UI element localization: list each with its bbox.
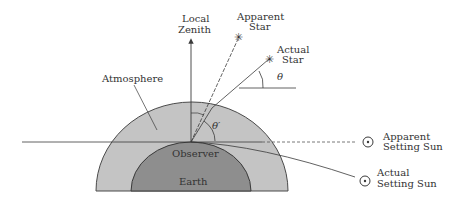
theta-arc xyxy=(259,71,263,88)
theta-prime-label: θ′ xyxy=(212,120,221,131)
atmosphere-label: Atmosphere xyxy=(101,73,163,84)
zenith-label-line2: Zenith xyxy=(178,24,212,35)
refraction-diagram: ✳ ✳ Local Zenith Apparent Star Actual St… xyxy=(0,0,457,203)
actual-sun-label-line1: Actual xyxy=(376,167,409,178)
apparent-star-icon: ✳ xyxy=(234,31,243,44)
actual-sun-icon xyxy=(360,176,370,186)
actual-sun-label-line2: Setting Sun xyxy=(377,178,437,189)
actual-star-icon: ✳ xyxy=(265,53,274,66)
earth-label: Earth xyxy=(179,176,208,187)
apparent-sun-label-line2: Setting Sun xyxy=(383,141,443,152)
apparent-sun-icon xyxy=(363,137,373,147)
actual-star-label-line2: Star xyxy=(282,54,304,65)
theta-label: θ xyxy=(277,71,283,82)
zenith-label-line1: Local xyxy=(182,13,209,24)
observer-label: Observer xyxy=(172,148,219,159)
apparent-star-label-line2: Star xyxy=(249,21,271,32)
